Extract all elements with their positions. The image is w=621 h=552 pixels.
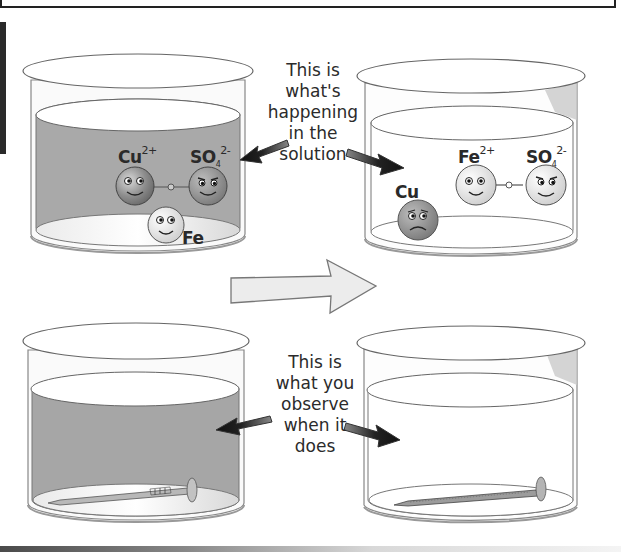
transition-arrow[interactable] xyxy=(231,260,376,313)
label-fe-2plus-after: Fe2+ xyxy=(458,146,495,167)
label-cu-after: Cu xyxy=(395,182,419,202)
label-so4-2minus-before: SO42- xyxy=(190,146,230,169)
cu-atom-after xyxy=(398,200,438,240)
caption-observe: This is what you observe when it does xyxy=(258,352,372,457)
page-bottom-bar xyxy=(0,546,621,552)
label-cu-2plus-before: Cu2+ xyxy=(118,146,157,167)
label-fe-before: Fe xyxy=(182,228,203,248)
label-so4-2minus-after: SO42- xyxy=(526,146,566,169)
so4-ion-after xyxy=(526,165,566,205)
so4-ion-before xyxy=(189,167,227,205)
beaker-after-observed xyxy=(357,326,585,522)
beaker-before-observed xyxy=(23,323,249,522)
fe-atom-before xyxy=(148,207,184,243)
caption-solution: This is what's happening in the solution xyxy=(252,60,374,165)
